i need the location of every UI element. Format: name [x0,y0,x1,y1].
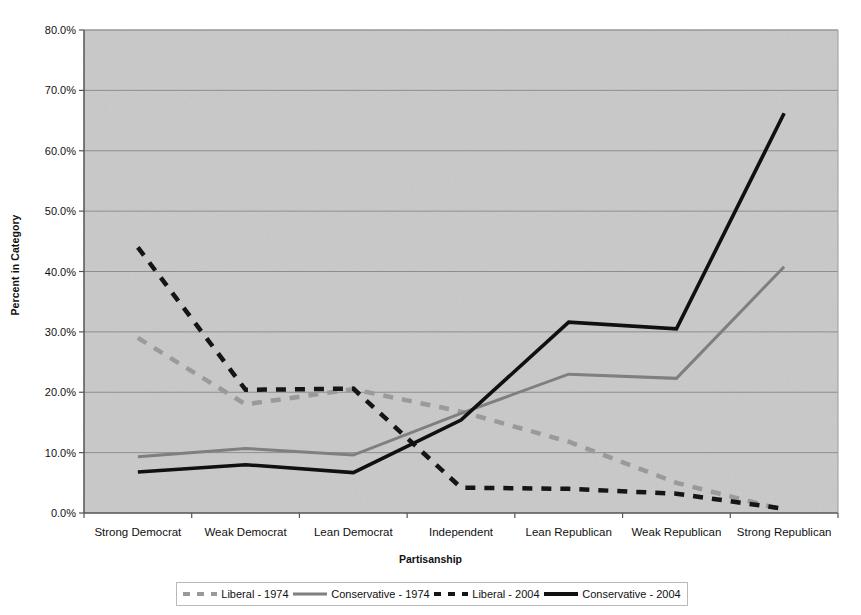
x-axis-tick-label: Lean Republican [526,526,612,538]
x-axis-tick-label: Weak Republican [631,526,721,538]
legend-item-label: Liberal - 1974 [219,588,288,600]
legend-swatch-solid-black-icon [544,589,578,599]
x-axis-title-text: Partisanship [399,553,462,565]
legend-item-label: Conservative - 2004 [580,588,680,600]
x-axis-title: Partisanship [0,553,861,565]
legend-item-label: Conservative - 1974 [329,588,429,600]
legend-swatch-dash-black-icon [434,589,468,599]
x-axis-tick-label: Independent [429,526,493,538]
legend-item[interactable]: Conservative - 1974 [293,588,429,600]
legend-item[interactable]: Conservative - 2004 [544,588,680,600]
x-axis-tick-labels: Strong DemocratWeak DemocratLean Democra… [0,0,861,615]
legend-item[interactable]: Liberal - 1974 [183,588,288,600]
chart-figure: Percent in Category 0.0%10.0%20.0%30.0%4… [0,0,861,615]
x-axis-tick-label: Weak Democrat [204,526,286,538]
legend-swatch-dash-gray-icon [183,589,217,599]
legend-item[interactable]: Liberal - 2004 [434,588,539,600]
x-axis-tick-label: Lean Democrat [314,526,393,538]
legend-swatch-solid-gray-icon [293,589,327,599]
chart-legend: Liberal - 1974Conservative - 1974Liberal… [176,582,688,606]
x-axis-tick-label: Strong Democrat [94,526,181,538]
x-axis-tick-label: Strong Republican [737,526,832,538]
legend-item-label: Liberal - 2004 [470,588,539,600]
